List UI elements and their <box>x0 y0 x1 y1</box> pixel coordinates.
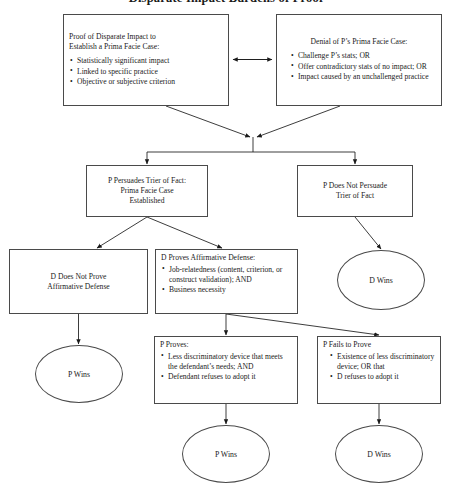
proof-bullet-3: Objective or subjective criterion <box>69 77 223 87</box>
junction-bus <box>147 137 355 152</box>
d-not-prove-line1: D Does Not Prove <box>51 272 107 282</box>
p-persuades-line2: Prima Facie Case <box>120 186 173 196</box>
denial-bullet-1: Challenge P’s stats; OR <box>290 51 436 61</box>
arrow-persuades-to-d-proves <box>147 217 222 248</box>
node-p-wins-bottom[interactable]: P Wins <box>182 425 270 483</box>
p-fails-bullet-1: Existence of less discriminatory device;… <box>329 352 435 372</box>
d-not-prove-line2: Affirmative Defense <box>47 282 109 292</box>
flowchart-canvas: Disparate Impact Burdens of Proof <box>0 0 452 498</box>
arrow-d-proves-to-p-fails <box>226 314 379 335</box>
node-d-wins-bottom[interactable]: D Wins <box>335 425 423 483</box>
p-proves-bullet-1: Less discriminatory device that meets th… <box>160 352 292 372</box>
p-persuades-line3: Established <box>129 196 164 206</box>
arrow-denial-to-junction <box>257 106 340 137</box>
node-p-proves[interactable]: P Proves: Less discriminatory device tha… <box>154 336 298 404</box>
node-p-wins-left[interactable]: P Wins <box>35 345 123 403</box>
proof-bullet-list: Statistically significant impact Linked … <box>69 56 223 88</box>
p-not-persuade-line1: P Does Not Persuade <box>323 181 387 191</box>
node-d-does-not-prove[interactable]: D Does Not Prove Affirmative Defense <box>9 249 148 314</box>
denial-bullet-3: Impact caused by an unchallenged practic… <box>290 72 436 82</box>
d-wins-right-label: D Wins <box>369 276 393 285</box>
proof-heading-line1: Proof of Disparate Impact to <box>69 32 223 42</box>
proof-heading-line2: Establish a Prima Facie Case: <box>69 42 223 52</box>
arrow-proof-to-junction <box>166 106 250 137</box>
d-proves-bullet-1: Job-relatedness (content, criterion, or … <box>161 265 292 285</box>
node-d-proves-affirmative-defense[interactable]: D Proves Affirmative Defense: Job-relate… <box>155 249 298 314</box>
arrow-persuades-to-d-not-prove <box>97 217 147 248</box>
node-p-fails-to-prove[interactable]: P Fails to Prove Existence of less discr… <box>317 336 441 404</box>
node-proof-disparate-impact[interactable]: Proof of Disparate Impact to Establish a… <box>63 14 229 106</box>
d-proves-heading: D Proves Affirmative Defense: <box>161 253 292 263</box>
p-wins-bottom-label: P Wins <box>215 450 237 459</box>
p-wins-left-label: P Wins <box>68 370 90 379</box>
denial-heading: Denial of P’s Prima Facie Case: <box>282 37 436 47</box>
node-denial-prima-facie[interactable]: Denial of P’s Prima Facie Case: Challeng… <box>276 14 442 106</box>
node-p-persuades[interactable]: P Persuades Trier of Fact: Prima Facie C… <box>86 165 208 217</box>
p-persuades-line1: P Persuades Trier of Fact: <box>108 176 186 186</box>
p-proves-bullet-list: Less discriminatory device that meets th… <box>160 352 292 383</box>
node-d-wins-right[interactable]: D Wins <box>337 250 425 310</box>
p-fails-bullet-2: D refuses to adopt it <box>329 372 435 382</box>
arrow-not-persuade-to-d-wins <box>355 217 381 249</box>
p-proves-heading: P Proves: <box>160 340 292 350</box>
d-proves-bullet-list: Job-relatedness (content, criterion, or … <box>161 265 292 296</box>
proof-bullet-2: Linked to specific practice <box>69 67 223 77</box>
chart-title: Disparate Impact Burdens of Proof <box>0 0 452 5</box>
d-wins-bottom-label: D Wins <box>367 450 391 459</box>
p-not-persuade-line2: Trier of Fact <box>336 191 374 201</box>
node-p-does-not-persuade[interactable]: P Does Not Persuade Trier of Fact <box>297 165 413 217</box>
p-fails-heading: P Fails to Prove <box>323 340 435 350</box>
p-fails-bullet-list: Existence of less discriminatory device;… <box>323 352 435 383</box>
denial-bullet-2: Offer contradictory stats of no impact; … <box>290 62 436 72</box>
denial-bullet-list: Challenge P’s stats; OR Offer contradict… <box>282 51 436 83</box>
p-proves-bullet-2: Defendant refuses to adopt it <box>160 372 292 382</box>
proof-bullet-1: Statistically significant impact <box>69 56 223 66</box>
d-proves-bullet-2: Business necessity <box>161 285 292 295</box>
